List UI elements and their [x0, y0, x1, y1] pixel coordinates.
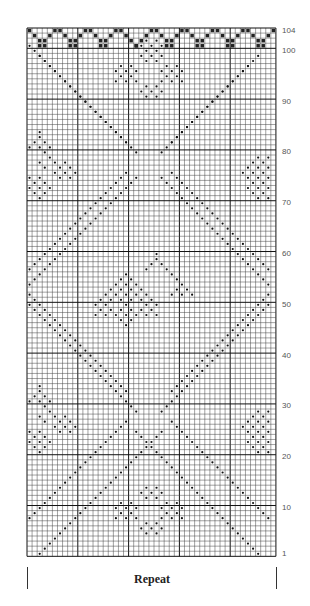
row-label: 1 [282, 550, 286, 558]
row-label: 104 [282, 27, 295, 35]
row-label: 60 [282, 250, 291, 258]
row-label: 30 [282, 402, 291, 410]
row-label: 90 [282, 98, 291, 106]
row-label: 20 [282, 453, 291, 461]
repeat-label: Repeat [27, 572, 277, 587]
row-label: 10 [282, 504, 291, 512]
lace-chart-grid [0, 0, 310, 566]
row-label: 70 [282, 199, 291, 207]
row-label: 100 [282, 47, 295, 55]
row-label: 40 [282, 352, 291, 360]
row-label: 50 [282, 301, 291, 309]
row-label: 80 [282, 148, 291, 156]
